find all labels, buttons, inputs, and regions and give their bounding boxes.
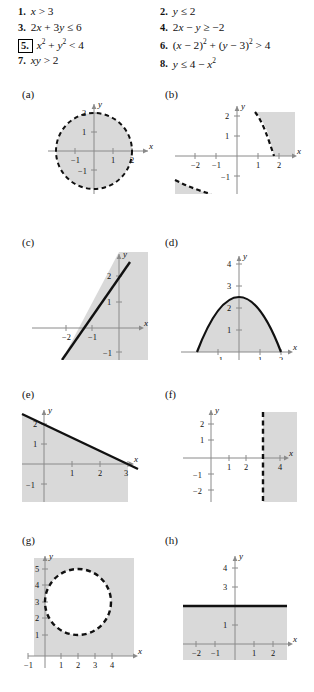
tick-label: 2	[244, 463, 248, 472]
tick-label: 1	[225, 132, 229, 141]
tick-label: 1	[223, 621, 227, 630]
exercise-expression: x2 + y2 < 4	[37, 35, 84, 52]
y-axis-label: y	[214, 405, 219, 415]
exercise-item: 5.x2 + y2 < 4	[18, 35, 158, 53]
tick-label: −1	[26, 481, 35, 490]
exercise-number: 1.	[18, 5, 26, 20]
tick-label: −1	[212, 161, 221, 170]
tick-label: 2	[33, 420, 37, 429]
tick-label: −1	[78, 167, 87, 176]
panel-g: (g)	[0, 532, 157, 678]
panel-a-plot: −1 1 2 1 2 −1 x y	[30, 94, 155, 194]
tick-label: −1	[88, 333, 97, 342]
panel-g-plot: −1 1 2 3 4 1 2 3 4 5 x y	[14, 544, 154, 674]
tick-label: −2	[192, 649, 201, 658]
panel-b-plot: −2 −1 1 2 1 2 −1 x y	[167, 94, 307, 194]
exercise-column-left: 1.x > 33.2x + 3y ≤ 65.x2 + y2 < 47.xy > …	[18, 4, 158, 69]
panel-e: (e) 1 2 3	[0, 386, 157, 506]
tick-label: 1	[227, 463, 231, 472]
tick-label: 1	[59, 661, 63, 670]
panel-c: (c) −2 −1 1	[0, 234, 157, 360]
exercise-expression: 2x + 3y ≤ 6	[31, 20, 82, 35]
exercise-number: 3.	[18, 21, 26, 36]
exercise-number: 6.	[160, 39, 168, 54]
x-axis-label: x	[143, 318, 148, 328]
x-axis-label: x	[288, 448, 293, 458]
tick-label: 1	[256, 161, 260, 170]
tick-label: 2	[130, 156, 134, 165]
tick-label: −1	[221, 173, 230, 182]
tick-label: 1	[227, 326, 231, 335]
tick-label: 2	[279, 356, 283, 360]
tick-label: 3	[227, 282, 231, 291]
tick-label: 1	[70, 469, 74, 478]
tick-label: 2	[227, 304, 231, 313]
exercise-expression: y ≤ 4 − x2	[173, 54, 216, 71]
y-axis-label: y	[48, 551, 53, 561]
exercise-item: 7.xy > 2	[18, 53, 158, 69]
tick-label: 2	[98, 469, 102, 478]
x-axis-label: x	[292, 342, 297, 352]
x-axis-label: x	[292, 634, 297, 644]
y-axis-label: y	[47, 405, 52, 415]
exercise-number-boxed: 5.	[18, 39, 33, 53]
exercise-item: 3.2x + 3y ≤ 6	[18, 20, 158, 36]
tick-label: 2	[277, 161, 281, 170]
tick-label: 1	[258, 356, 262, 360]
exercise-expression: x > 3	[31, 4, 54, 19]
tick-label: 2	[225, 112, 229, 121]
y-axis-arrow	[237, 256, 242, 261]
exercise-item: 8.y ≤ 4 − x2	[160, 54, 314, 72]
tick-label: 2	[82, 109, 86, 118]
tick-label: −1	[193, 471, 202, 480]
tick-label: −1	[211, 649, 220, 658]
tick-label: 1	[82, 128, 86, 137]
panel-d: (d) −1 1	[157, 234, 314, 360]
shaded-region	[255, 112, 295, 156]
y-axis-label: y	[97, 99, 102, 109]
y-axis-arrow	[42, 410, 47, 415]
panel-c-plot: −2 −1 1 2 −1 x y	[24, 244, 154, 360]
shaded-region	[62, 252, 148, 360]
exercise-number: 7.	[18, 54, 26, 69]
y-axis-arrow	[209, 410, 214, 415]
tick-label: 3	[35, 598, 39, 607]
tick-label: 2	[35, 614, 39, 623]
tick-label: 4	[110, 661, 115, 670]
panel-d-plot: −1 1 2 1 2 3 4 x y	[169, 244, 307, 360]
y-axis-label: y	[240, 101, 245, 111]
tick-label: −1	[71, 156, 80, 165]
tick-label: 4	[227, 260, 232, 269]
tick-label: 2	[271, 649, 275, 658]
x-axis-arrow	[143, 149, 148, 154]
exercise-column-right: 2.y ≤ 24.2x − y ≥ −26.(x − 2)2 + (y − 3)…	[160, 4, 314, 72]
tick-label: −1	[24, 661, 33, 670]
y-axis-arrow	[92, 104, 97, 109]
panel-f: (f) 1 2	[157, 386, 314, 506]
y-axis-label: y	[242, 251, 247, 261]
exercise-number: 2.	[160, 5, 168, 20]
exercise-number: 4.	[160, 21, 168, 36]
y-axis-arrow	[235, 106, 240, 111]
y-axis-arrow	[233, 556, 238, 561]
exercise-item: 1.x > 3	[18, 4, 158, 20]
panel-a: (a) −1 1 2	[0, 86, 157, 196]
panel-h: (h) −2 −1	[157, 532, 314, 678]
exercise-number: 8.	[160, 57, 168, 72]
tick-label: −2	[191, 161, 200, 170]
tick-label: −2	[62, 333, 71, 342]
tick-label: 3	[223, 583, 227, 592]
exercise-item: 4.2x − y ≥ −2	[160, 20, 314, 36]
tick-label: 1	[33, 440, 37, 449]
tick-label: −2	[193, 487, 202, 496]
tick-label: −1	[214, 356, 223, 360]
y-axis-label: y	[238, 551, 243, 561]
tick-label: 1	[107, 298, 111, 307]
exercise-expression: 2x − y ≥ −2	[173, 20, 225, 35]
x-axis-label: x	[133, 454, 138, 464]
x-axis-label: x	[296, 146, 301, 156]
exercise-expression: xy > 2	[31, 53, 59, 68]
tick-label: 1	[111, 156, 115, 165]
exercise-item: 2.y ≤ 2	[160, 4, 314, 20]
exercise-list: 1.x > 33.2x + 3y ≤ 65.x2 + y2 < 47.xy > …	[0, 0, 314, 84]
